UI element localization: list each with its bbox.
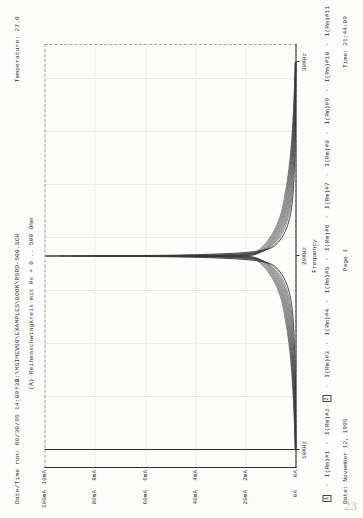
- legend-separator: ▫: [323, 257, 330, 261]
- run-datetime-label: Date/Time run: 08/30/95 14:09:33: [13, 379, 20, 504]
- y-axis-2-tick-label: 6mA: [142, 470, 149, 481]
- legend-separator: ▫: [323, 299, 330, 303]
- y-axis-1-tick-label: 40mA: [192, 490, 199, 504]
- temperature-label: Temperature: 27.0: [13, 16, 20, 83]
- plot-legend: 1 ▫ I(Rm)#1 ▫ I(Rm)#2 2 ▫ I(Rm)#3 ▫ I(Rm…: [322, 6, 331, 504]
- plot-canvas: 100mA 80mA 60mA 40mA 20mA 0A 10mA 8mA 6m…: [44, 44, 296, 468]
- y-axis-1-tick-label: 60mA: [142, 490, 149, 504]
- legend-item[interactable]: I(Rm)#4: [323, 309, 330, 336]
- legend-item[interactable]: I(Rm)#7: [323, 182, 330, 209]
- footer-time: Time: 21:44:09: [341, 16, 348, 68]
- schematic-path-label: * D:\MSIMEV60\EXAMPLES\BOOK\RSRD-500.SCH: [13, 233, 20, 390]
- curve-series-11: [184, 62, 295, 450]
- x-axis-tickmark: [296, 255, 299, 256]
- footer-page-number: Page 1: [341, 249, 348, 271]
- legend-marker-1[interactable]: 1: [322, 495, 331, 502]
- y-axis-2-tick-label: 10mA: [41, 470, 48, 484]
- legend-item[interactable]: I(Rm)#6: [323, 224, 330, 251]
- y-axis-1-tick-label: 0A: [292, 490, 299, 497]
- legend-separator: ▫: [323, 215, 330, 219]
- legend-item[interactable]: I(Rm)#8: [323, 140, 330, 167]
- legend-separator: ▫: [323, 341, 330, 345]
- scan-page-number: 23: [344, 498, 357, 514]
- legend-marker-2[interactable]: 2: [322, 395, 331, 402]
- legend-separator: ▫: [323, 88, 330, 92]
- y-axis-1-tick-label: 80mA: [91, 490, 98, 504]
- y-axis-2-tick-label: 0A: [292, 470, 299, 477]
- legend-separator: ▫: [323, 483, 330, 487]
- y-axis-2-tick-label: 8mA: [91, 470, 98, 481]
- legend-item[interactable]: I(Rm)#3: [323, 351, 330, 378]
- legend-separator: ▫: [323, 130, 330, 134]
- legend-item[interactable]: I(Rm)#2: [323, 408, 330, 435]
- legend-item[interactable]: I(Rm)#1: [323, 450, 330, 477]
- legend-separator: ▫: [323, 441, 330, 445]
- resonance-curves: [44, 44, 296, 468]
- plot-sheet: Date/Time run: 08/30/95 14:09:33 * D:\MS…: [0, 0, 363, 518]
- footer-date: Date: November 12, 1995: [341, 419, 348, 504]
- y-axis-1-tick-label: 20mA: [242, 490, 249, 504]
- legend-separator: ▫: [323, 383, 330, 387]
- legend-item[interactable]: I(Rm)#10: [323, 52, 330, 83]
- x-axis-tick-label: 20KHz: [300, 247, 307, 265]
- plot-area: 100mA 80mA 60mA 40mA 20mA 0A 10mA 8mA 6m…: [44, 44, 296, 468]
- legend-separator: ▫: [323, 42, 330, 46]
- y-axis-1-tick-label: 100mA: [41, 490, 48, 508]
- printout-page: Date/Time run: 08/30/95 14:09:33 * D:\MS…: [0, 0, 363, 518]
- plot-subtitle: (A) Reihenschwingkreis mit Rs = 0 .. 500…: [27, 218, 34, 390]
- legend-item[interactable]: I(Rm)#5: [323, 267, 330, 294]
- y-axis-2-tick-label: 2mA: [242, 470, 249, 481]
- x-axis-tick-label: 30KHz: [300, 53, 307, 71]
- legend-separator: ▫: [323, 173, 330, 177]
- legend-item[interactable]: I(Rm)#11: [323, 6, 330, 37]
- legend-item[interactable]: I(Rm)#9: [323, 98, 330, 125]
- x-axis-tick-label: 10KHz: [300, 441, 307, 459]
- x-axis-tickmark: [296, 61, 299, 62]
- x-axis-tickmark: [296, 449, 299, 450]
- x-axis-title: Frequency: [310, 239, 317, 272]
- y-axis-2-tick-label: 4mA: [192, 470, 199, 481]
